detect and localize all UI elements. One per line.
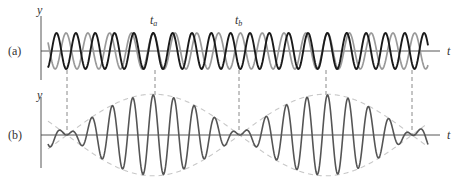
marker-ta-sub: a	[153, 19, 157, 28]
marker-ta-label: ta	[150, 14, 157, 28]
panel-a-t-label: t	[447, 45, 450, 57]
panel-b-label: (b)	[8, 129, 22, 141]
panel-b	[41, 94, 440, 176]
envelope-lower	[48, 135, 428, 176]
panel-b-y-label: y	[37, 89, 42, 101]
panel-a-label: (a)	[8, 45, 21, 57]
marker-tb-sub: b	[238, 19, 242, 28]
panel-a-y-label: y	[37, 4, 42, 16]
marker-tb-label: tb	[235, 14, 242, 28]
panel-b-t-label: t	[447, 129, 450, 141]
